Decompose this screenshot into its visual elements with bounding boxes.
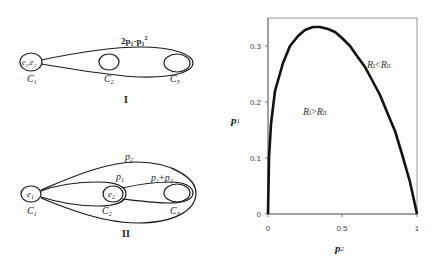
y-tick-labels: 0 0.1 0.2 0.3 — [250, 42, 262, 219]
annotation-ri-lt-rii: RI<RII — [366, 59, 391, 70]
node-c3-circle — [164, 54, 190, 72]
p1-plus-p2-label: p1+p2 — [150, 172, 173, 184]
x-tick-labels: 0 0.5 1 — [266, 224, 420, 233]
e2-label: e2 — [108, 189, 115, 200]
svg-text:0.3: 0.3 — [250, 42, 262, 51]
svg-text:1: 1 — [415, 224, 420, 233]
diagram-II-caption: II — [122, 228, 130, 239]
diagram-I-caption: I — [124, 94, 128, 105]
p1-label: p1 — [115, 171, 124, 183]
chart: 0 0.1 0.2 0.3 0 0.5 1 RI>RII RI<RII p1 p… — [230, 18, 420, 254]
svg-text:0.2: 0.2 — [250, 98, 262, 107]
p2-label: p2 — [124, 151, 133, 163]
node-c3-label: C3 — [170, 73, 180, 85]
top-label-2p1-p1sq: 2p1-p12 — [121, 35, 148, 47]
node-c3-circle-ii — [164, 184, 190, 202]
node-c1-label: C1 — [27, 73, 37, 85]
node-c1-label-ii: C1 — [27, 205, 37, 217]
svg-text:0.1: 0.1 — [250, 154, 262, 163]
e1-label: e1 — [27, 189, 34, 200]
node-c2-circle — [99, 54, 119, 70]
annotation-ri-gt-rii: RI>RII — [302, 106, 327, 117]
boundary-curve — [268, 27, 417, 214]
svg-text:0: 0 — [257, 210, 262, 219]
node-c3-label-ii: C3 — [170, 205, 180, 217]
diagram-I-labels: e1,e2 2p1-p12 C1 C2 C3 I — [22, 35, 180, 105]
x-axis-label: p2 — [334, 242, 345, 254]
svg-text:0: 0 — [266, 224, 271, 233]
node-c2-label-ii: C2 — [102, 205, 112, 217]
svg-text:0.5: 0.5 — [336, 224, 348, 233]
y-axis-label: p1 — [230, 114, 240, 126]
c1-inner-label: e1,e2 — [22, 58, 37, 68]
figure-canvas: e1,e2 2p1-p12 C1 C2 C3 I e1 e2 p2 p1 p1+… — [0, 0, 443, 271]
